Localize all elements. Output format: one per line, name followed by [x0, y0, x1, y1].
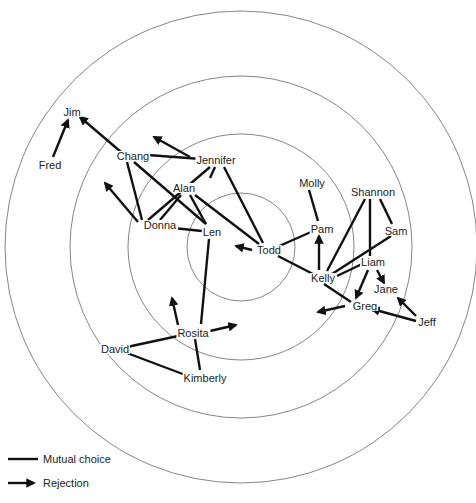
- mutual-edge-rosita-kimberly: [195, 339, 200, 370]
- node-liam: Liam: [360, 256, 386, 268]
- node-alan: Alan: [172, 182, 196, 194]
- mutual-edge-shannon-sam: [380, 199, 392, 224]
- node-label: Pam: [311, 223, 334, 235]
- node-kimberly: Kimberly: [183, 372, 228, 384]
- node-label: Kimberly: [184, 372, 227, 384]
- rejection-arrow-rosita: [210, 325, 236, 331]
- mutual-edge-molly-pam: [309, 190, 318, 221]
- node-jennifer: Jennifer: [195, 154, 236, 166]
- node-label: Greg: [353, 300, 377, 312]
- rejection-arrow-rosita: [172, 298, 178, 325]
- node-label: David: [101, 343, 129, 355]
- node-label: Jeff: [418, 316, 436, 328]
- node-chang: Chang: [116, 150, 150, 162]
- node-label: Kelly: [311, 272, 335, 284]
- node-jeff: Jeff: [417, 316, 437, 328]
- rejection-arrow-liam-jane: [377, 270, 384, 283]
- node-jim: Jim: [62, 106, 81, 118]
- node-label: Jane: [374, 283, 398, 295]
- mutual-edge-sam-kelly: [332, 236, 391, 274]
- node-label: Todd: [257, 244, 281, 256]
- node-label: Alan: [173, 182, 195, 194]
- node-label: Chang: [117, 150, 149, 162]
- node-label: Rosita: [177, 327, 209, 339]
- node-molly: Molly: [298, 177, 326, 189]
- legend-mutual-label: Mutual choice: [43, 453, 111, 465]
- legend: Mutual choice Rejection: [8, 453, 111, 489]
- node-todd: Todd: [256, 244, 282, 256]
- mutual-edge-liam-kelly: [337, 264, 362, 276]
- node-len: Len: [202, 226, 222, 238]
- mutual-edge-todd-pam: [277, 232, 311, 247]
- mutual-edge-rosita-david: [127, 336, 178, 347]
- rejection-arrow-liam-greg: [356, 270, 368, 298]
- rejection-arrow-greg: [318, 306, 345, 312]
- legend-rejection-label: Rejection: [43, 477, 89, 489]
- node-label: Jim: [63, 106, 80, 118]
- node-kelly: Kelly: [310, 272, 336, 284]
- node-label: Jennifer: [196, 154, 235, 166]
- node-rosita: Rosita: [176, 327, 210, 339]
- mutual-edge-alan-len: [190, 195, 206, 224]
- node-label: Molly: [299, 177, 325, 189]
- node-jane: Jane: [373, 283, 399, 295]
- node-label: Len: [203, 226, 221, 238]
- node-label: Donna: [144, 219, 177, 231]
- mutual-edge-shannon-kelly: [327, 199, 365, 271]
- rejection-arrow-chang-jim: [80, 117, 121, 152]
- node-label: Fred: [39, 159, 62, 171]
- node-label: Sam: [385, 225, 408, 237]
- node-label: Liam: [361, 256, 385, 268]
- rejection-arrow-todd: [236, 246, 252, 250]
- mutual-edge-todd-kelly: [278, 256, 313, 274]
- mutual-edge-len-rosita: [201, 239, 209, 324]
- node-greg: Greg: [352, 300, 378, 312]
- mutual-edge-jennifer-alan: [210, 167, 215, 178]
- node-pam: Pam: [310, 223, 335, 235]
- node-sam: Sam: [384, 225, 409, 237]
- node-label: Shannon: [351, 186, 395, 198]
- rejection-arrow-fred-jim: [53, 120, 68, 157]
- sociogram: JimFredChangJenniferAlanDonnaLenToddMoll…: [0, 0, 476, 503]
- node-david: David: [100, 343, 130, 355]
- node-fred: Fred: [38, 159, 63, 171]
- mutual-edge-david-kimberly: [127, 353, 188, 376]
- rejection-arrow-jennifer: [154, 137, 190, 157]
- node-donna: Donna: [143, 219, 178, 231]
- node-shannon: Shannon: [350, 186, 396, 198]
